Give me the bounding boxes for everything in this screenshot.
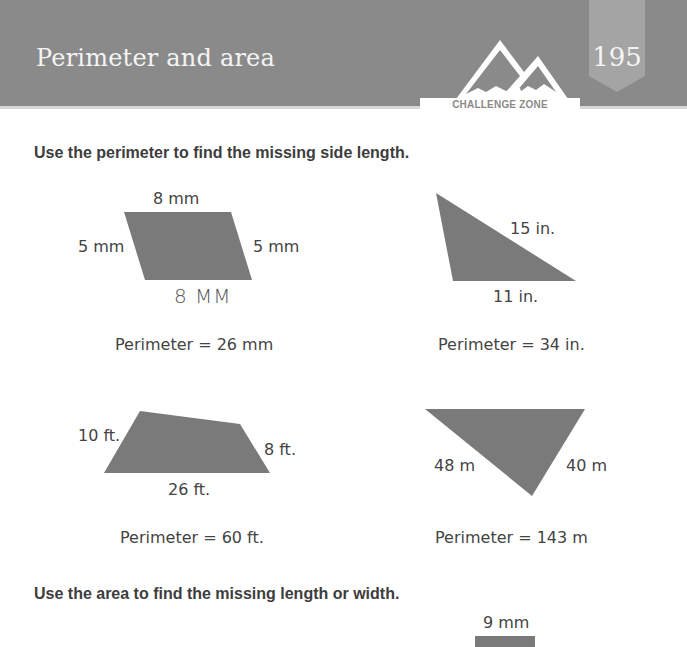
section2-instruction: Use the area to find the missing length … — [34, 585, 399, 603]
perimeter-label-4: Perimeter = 143 m — [435, 528, 588, 547]
triangle-bottom-label: 11 in. — [493, 287, 538, 306]
quad-left-label: 10 ft. — [78, 426, 120, 445]
perimeter-label-1: Perimeter = 26 mm — [115, 335, 273, 354]
parallelogram-shape — [0, 0, 687, 647]
inv-triangle-right-label: 40 m — [566, 456, 607, 475]
parallelogram-top-label: 8 mm — [153, 189, 199, 208]
inv-triangle-left-label: 48 m — [434, 456, 475, 475]
triangle-hypotenuse-label: 15 in. — [510, 219, 555, 238]
rectangle-shape — [475, 636, 535, 647]
rectangle-top-label: 9 mm — [483, 613, 529, 632]
perimeter-label-3: Perimeter = 60 ft. — [120, 528, 264, 547]
parallelogram-left-label: 5 mm — [78, 237, 124, 256]
parallelogram-right-label: 5 mm — [253, 237, 299, 256]
perimeter-label-2: Perimeter = 34 in. — [438, 335, 585, 354]
quad-bottom-label: 26 ft. — [168, 480, 210, 499]
quad-right-label: 8 ft. — [264, 440, 296, 459]
handwritten-answer: 8 MM — [174, 284, 232, 308]
